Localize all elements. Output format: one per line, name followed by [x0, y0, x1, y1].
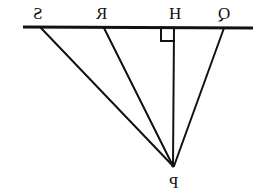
right-angle-marker-icon [161, 29, 174, 41]
vertex-label-h: H [169, 5, 181, 22]
vertex-label-p: P [169, 174, 178, 191]
apex-point-p [171, 164, 174, 167]
geometry-figure: S R H Q P [0, 0, 272, 196]
segment-q-to-p [174, 28, 224, 166]
vertex-label-q: Q [218, 5, 230, 22]
segment-h-to-p [173, 28, 174, 166]
vertex-label-r: R [96, 5, 107, 22]
figure-canvas [0, 0, 272, 196]
segment-s-to-p [41, 28, 173, 166]
vertex-label-s: S [33, 5, 42, 22]
horizontal-baseline [23, 27, 253, 28]
segment-r-to-p [104, 28, 173, 166]
